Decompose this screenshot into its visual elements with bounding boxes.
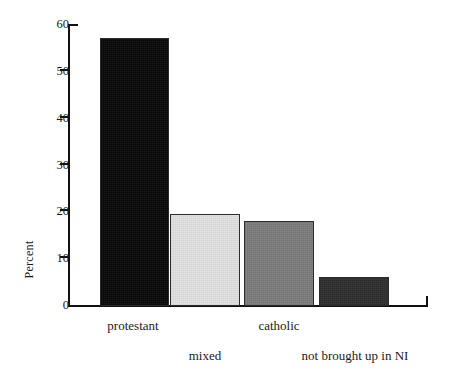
bar-not-brought-up-in-ni[interactable] xyxy=(319,277,389,306)
y-tick-label-60: 60 xyxy=(43,18,69,30)
y-tick-0: 0 xyxy=(0,299,69,311)
plot-area: 60 50 40 30 20 10 0 Percent xyxy=(0,0,453,381)
y-tick-60: 60 xyxy=(0,18,69,30)
y-tick-label-50: 50 xyxy=(43,65,69,77)
y-axis-top-tick xyxy=(68,24,78,26)
y-tick-20: 20 xyxy=(0,205,69,217)
bar-catholic[interactable] xyxy=(244,221,314,306)
x-axis-end-tick xyxy=(426,296,428,307)
y-tick-label-10: 10 xyxy=(43,252,69,264)
bar-texture xyxy=(171,215,239,305)
y-axis-title: Percent xyxy=(22,225,37,295)
bar-texture xyxy=(101,39,168,305)
category-label-catholic: catholic xyxy=(219,318,339,333)
y-tick-30: 30 xyxy=(0,159,69,171)
y-tick-label-0: 0 xyxy=(43,299,69,311)
y-tick-label-20: 20 xyxy=(43,205,69,217)
y-tick-50: 50 xyxy=(0,65,69,77)
bar-chart-figure: 60 50 40 30 20 10 0 Percent xyxy=(0,0,453,381)
bar-texture xyxy=(320,278,388,305)
category-label-mixed: mixed xyxy=(145,348,265,363)
y-tick-label-40: 40 xyxy=(43,112,69,124)
bar-texture xyxy=(245,222,313,305)
bar-protestant[interactable] xyxy=(100,38,169,306)
y-tick-label-30: 30 xyxy=(43,159,69,171)
category-label-protestant: protestant xyxy=(73,318,193,333)
category-label-not-brought-up-in-ni: not brought up in NI xyxy=(277,348,433,363)
y-tick-40: 40 xyxy=(0,112,69,124)
bar-mixed[interactable] xyxy=(170,214,240,306)
